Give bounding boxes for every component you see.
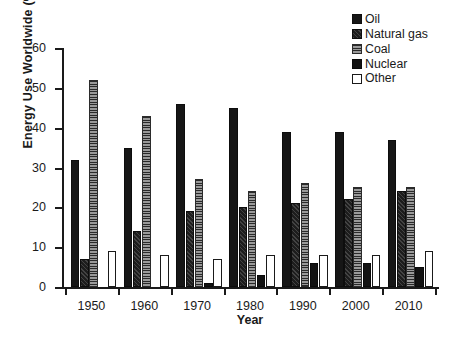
bar-coal-1990 (301, 183, 310, 287)
bar-coal-2000 (353, 187, 362, 287)
bar-coal-1950 (89, 80, 98, 287)
y-tick-label: 0 (39, 280, 46, 294)
x-tick-label: 1970 (183, 299, 211, 313)
bar-oil-1960 (124, 148, 133, 287)
x-tick-label: 2010 (395, 299, 423, 313)
bar-oil-2000 (335, 132, 344, 287)
bar-natural-gas-1960 (133, 231, 142, 287)
bar-natural-gas-1980 (239, 207, 248, 287)
bar-natural-gas-2000 (344, 199, 353, 287)
bar-oil-1980 (229, 108, 238, 287)
bar-other-1970 (213, 259, 222, 287)
legend-swatch-icon (352, 29, 362, 39)
y-tick-label: 60 (32, 41, 46, 55)
bar-oil-1950 (71, 160, 80, 287)
bar-oil-2010 (388, 140, 397, 287)
bar-other-1960 (160, 255, 169, 287)
x-tick-mark (329, 288, 331, 295)
y-tick-label: 50 (32, 81, 46, 95)
y-tick-mark (55, 247, 63, 249)
x-tick-label: 2000 (342, 299, 370, 313)
y-tick-label: 30 (32, 161, 46, 175)
legend-item-nuclear: Nuclear (352, 56, 428, 71)
legend-item-oil: Oil (352, 12, 428, 27)
x-tick-label: 1950 (78, 299, 106, 313)
bar-nuclear-1990 (310, 263, 319, 287)
bar-nuclear-2010 (415, 267, 424, 287)
bar-nuclear-2000 (363, 263, 372, 287)
y-tick-mark (55, 207, 63, 209)
bar-other-1990 (319, 255, 328, 287)
legend-label: Oil (365, 13, 380, 25)
legend-item-other: Other (352, 71, 428, 86)
x-axis-title: Year (62, 313, 438, 327)
bar-natural-gas-1970 (186, 211, 195, 287)
y-tick-mark (55, 88, 63, 90)
y-tick-mark (55, 48, 63, 50)
legend-swatch-icon (352, 74, 362, 84)
bar-oil-1990 (282, 132, 291, 287)
legend-label: Other (365, 72, 396, 84)
x-tick-mark (276, 288, 278, 295)
x-tick-mark (435, 288, 437, 295)
bar-coal-1960 (142, 116, 151, 287)
legend-swatch-icon (352, 59, 362, 69)
bar-nuclear-1980 (257, 275, 266, 287)
bar-coal-1970 (195, 179, 204, 287)
bar-other-2000 (372, 255, 381, 287)
y-tick-label: 20 (32, 200, 46, 214)
bar-natural-gas-1990 (291, 203, 300, 287)
bar-coal-1980 (248, 191, 257, 287)
bar-chart: Energy Use Worldwide (%) 0102030405060 1… (0, 0, 467, 342)
x-tick-label: 1960 (130, 299, 158, 313)
bar-other-2010 (425, 251, 434, 287)
legend-item-coal: Coal (352, 42, 428, 57)
legend-label: Coal (365, 43, 390, 55)
bar-nuclear-1970 (204, 283, 213, 287)
x-tick-label: 1980 (236, 299, 264, 313)
x-tick-label: 1990 (289, 299, 317, 313)
bar-coal-2010 (406, 187, 415, 287)
legend-label: Natural gas (365, 28, 428, 40)
y-tick-mark (55, 287, 63, 289)
y-tick-mark (55, 128, 63, 130)
x-tick-mark (382, 288, 384, 295)
x-tick-mark (65, 288, 67, 295)
bar-natural-gas-2010 (397, 191, 406, 287)
bar-other-1950 (108, 251, 117, 287)
legend-swatch-icon (352, 14, 362, 24)
x-tick-mark (171, 288, 173, 295)
legend-label: Nuclear (365, 58, 407, 70)
bar-oil-1970 (176, 104, 185, 287)
legend-swatch-icon (352, 44, 362, 54)
bar-other-1980 (266, 255, 275, 287)
x-tick-mark (118, 288, 120, 295)
y-tick-mark (55, 168, 63, 170)
y-tick-label: 40 (32, 121, 46, 135)
bar-natural-gas-1950 (80, 259, 89, 287)
legend-item-natural-gas: Natural gas (352, 27, 428, 42)
y-tick-label: 10 (32, 240, 46, 254)
x-tick-mark (224, 288, 226, 295)
legend: OilNatural gasCoalNuclearOther (352, 12, 428, 86)
